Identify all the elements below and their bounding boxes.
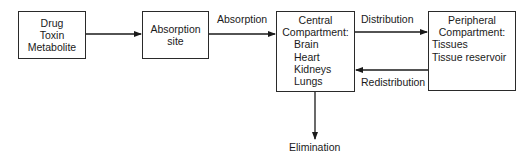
peripheral-compartment-node: Peripheral Compartment: Tissues Tissue r… [428, 11, 516, 91]
central-item-list: Brain Heart Kidneys Lungs [277, 38, 354, 87]
central-item: Brain [294, 38, 354, 50]
absorption-site-line: site [143, 35, 208, 47]
central-item: Heart [294, 51, 354, 63]
redistribution-label: Redistribution [361, 76, 425, 88]
peripheral-item: Tissue reservoir [432, 51, 515, 63]
peripheral-item-list: Tissues Tissue reservoir [429, 38, 515, 62]
central-item: Kidneys [294, 63, 354, 75]
peripheral-title: Peripheral [429, 14, 515, 26]
central-compartment-node: Central Compartment: Brain Heart Kidneys… [276, 11, 355, 92]
peripheral-title: Compartment: [429, 26, 515, 38]
source-node: Drug Toxin Metabolite [18, 11, 86, 59]
central-title: Compartment: [277, 26, 354, 38]
elimination-label: Elimination [289, 141, 340, 153]
central-item: Lungs [294, 75, 354, 87]
peripheral-item: Tissues [432, 38, 515, 50]
absorption-label: Absorption [217, 13, 267, 25]
central-title: Central [277, 14, 354, 26]
source-line: Metabolite [19, 41, 85, 53]
absorption-site-node: Absorption site [142, 11, 209, 59]
distribution-label: Distribution [361, 13, 414, 25]
source-line: Toxin [19, 29, 85, 41]
source-line: Drug [19, 17, 85, 29]
absorption-site-line: Absorption [143, 23, 208, 35]
